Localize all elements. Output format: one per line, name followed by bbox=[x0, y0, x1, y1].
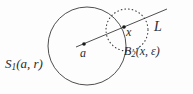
figure-canvas bbox=[0, 0, 193, 94]
sphere-label-args: (a, r) bbox=[16, 56, 43, 71]
point-x-label: x bbox=[126, 26, 131, 38]
math-figure: S1(a, r) a x L B2(x, ε) bbox=[0, 0, 193, 94]
sphere-label: S1(a, r) bbox=[5, 57, 43, 72]
center-point-label: a bbox=[80, 47, 86, 59]
ball-label: B2(x, ε) bbox=[124, 45, 160, 59]
sphere-s1-circle bbox=[48, 7, 126, 85]
ball-label-args: (x, ε) bbox=[136, 44, 160, 58]
line-label: L bbox=[154, 20, 162, 34]
